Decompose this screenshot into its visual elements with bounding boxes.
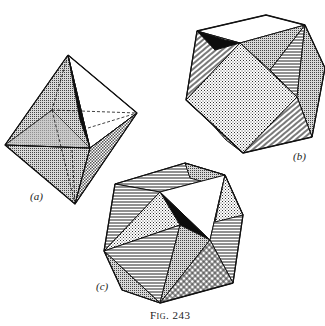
- cuboctahedron-b: [186, 15, 325, 153]
- octahedron-a: [5, 55, 137, 204]
- figure-drawing: [0, 0, 325, 326]
- panel-label-a: (a): [30, 190, 43, 202]
- panel-label-b: (b): [293, 150, 306, 162]
- figure-caption: Fig. 243: [150, 309, 191, 321]
- crystal-c: [104, 163, 243, 303]
- panel-label-c: (c): [96, 280, 108, 292]
